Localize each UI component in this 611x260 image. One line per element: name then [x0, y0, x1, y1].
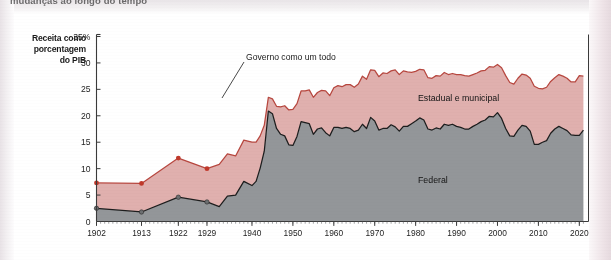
- y-tick-label-10: 10: [81, 164, 91, 174]
- x-axis-ticks: 1902191319221929194019501960197019801990…: [87, 222, 589, 238]
- marker-federal-1922: [176, 195, 180, 199]
- callout-leader-line: [222, 62, 244, 98]
- x-tick-label-2020: 2020: [570, 228, 589, 238]
- x-tick-label-1990: 1990: [447, 228, 466, 238]
- x-tick-label-1940: 1940: [243, 228, 262, 238]
- y-tick-label-5: 5: [86, 190, 91, 200]
- x-tick-label-1922: 1922: [169, 228, 188, 238]
- annotation-total-government: Governo como um todo: [246, 52, 336, 62]
- chart-plot-area: 05101520253035% 190219131922192919401950…: [0, 0, 611, 260]
- y-tick-label-25: 25: [81, 84, 91, 94]
- marker-total-1922: [176, 156, 181, 161]
- marker-federal-1913: [139, 210, 143, 214]
- marker-federal-1929: [205, 200, 209, 204]
- y-tick-label-30: 30: [81, 58, 91, 68]
- x-tick-label-1902: 1902: [87, 228, 106, 238]
- annotation-federal: Federal: [418, 175, 448, 185]
- y-tick-label-20: 20: [81, 111, 91, 121]
- x-tick-label-2000: 2000: [488, 228, 507, 238]
- x-tick-label-1980: 1980: [406, 228, 425, 238]
- x-tick-label-2010: 2010: [529, 228, 548, 238]
- marker-total-1929: [205, 166, 210, 171]
- x-tick-label-1960: 1960: [324, 228, 343, 238]
- figure-root: mudanças ao longo do tempo Receita como …: [0, 0, 611, 260]
- y-tick-label-15: 15: [81, 137, 91, 147]
- x-tick-label-1913: 1913: [132, 228, 151, 238]
- area-series-group: [97, 65, 584, 222]
- x-tick-label-1950: 1950: [284, 228, 303, 238]
- x-tick-label-1970: 1970: [365, 228, 384, 238]
- annotation-state-local: Estadual e municipal: [418, 93, 499, 103]
- marker-total-1913: [139, 181, 144, 186]
- x-tick-label-1929: 1929: [198, 228, 217, 238]
- stacked-area-chart: 05101520253035% 190219131922192919401950…: [0, 0, 611, 260]
- y-tick-label-35: 35%: [73, 32, 91, 42]
- y-tick-label-0: 0: [86, 217, 91, 227]
